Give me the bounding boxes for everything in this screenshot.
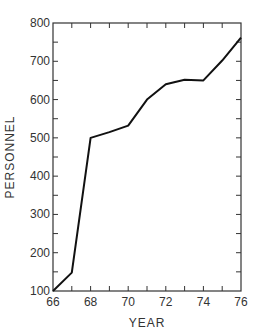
y-tick-label: 400 (30, 169, 50, 183)
y-tick-labels: 100200300400500600700800 (30, 16, 50, 298)
y-tick-label: 700 (30, 54, 50, 68)
y-tick-label: 600 (30, 93, 50, 107)
y-tick-label: 800 (30, 16, 50, 30)
line-chart: 100200300400500600700800 666870727476 YE… (0, 0, 256, 332)
x-tick-label: 74 (197, 295, 211, 309)
y-axis-label: PERSONNEL (3, 115, 17, 198)
plot-frame (53, 23, 241, 291)
x-tick-label: 76 (234, 295, 248, 309)
y-tick-label: 300 (30, 207, 50, 221)
personnel-series-line (53, 38, 241, 291)
x-tick-labels: 666870727476 (46, 295, 248, 309)
x-tick-label: 70 (122, 295, 136, 309)
x-axis-label: YEAR (129, 316, 166, 330)
plot-border (53, 23, 241, 291)
x-tick-label: 72 (159, 295, 173, 309)
y-tick-label: 200 (30, 246, 50, 260)
axis-ticks (53, 23, 241, 291)
y-tick-label: 500 (30, 131, 50, 145)
x-tick-label: 66 (46, 295, 60, 309)
x-tick-label: 68 (84, 295, 98, 309)
